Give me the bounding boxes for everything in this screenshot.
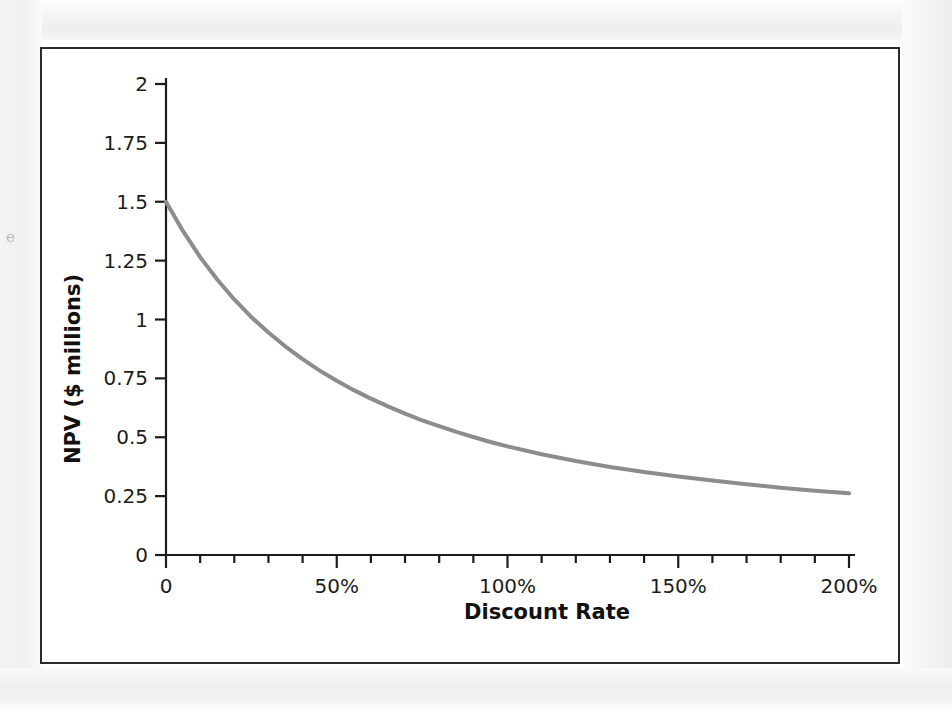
page-texture-top	[0, 0, 952, 40]
x-axis-title: Discount Rate	[464, 600, 630, 624]
y-tick-label: 0.75	[103, 366, 148, 390]
y-tick-label: 0	[135, 543, 148, 567]
x-tick-label: 150%	[650, 574, 707, 598]
data-series-lines	[166, 202, 849, 494]
y-axis-title: NPV ($ millions)	[61, 274, 85, 464]
x-tick-label: 0	[160, 574, 173, 598]
y-tick-label: 1.75	[103, 131, 148, 155]
y-tick-label: 0.25	[103, 484, 148, 508]
x-tick-label: 50%	[315, 574, 359, 598]
y-tick-label: 0.5	[116, 425, 148, 449]
x-tick-label: 100%	[479, 574, 536, 598]
x-tick-label: 200%	[820, 574, 877, 598]
y-axis-ticks: 00.250.50.7511.251.51.752	[103, 72, 166, 567]
npv-curve	[166, 202, 849, 494]
y-tick-label: 1	[135, 308, 148, 332]
page-texture-right	[902, 0, 952, 712]
npv-vs-discount-rate-chart: 00.250.50.7511.251.51.752 050%100%150%20…	[42, 49, 898, 662]
y-tick-label: 2	[135, 72, 148, 96]
figure-frame: 00.250.50.7511.251.51.752 050%100%150%20…	[40, 47, 900, 664]
page-texture-left	[0, 0, 42, 712]
x-axis-ticks: 050%100%150%200%	[160, 555, 878, 598]
y-tick-label: 1.25	[103, 249, 148, 273]
y-tick-label: 1.5	[116, 190, 148, 214]
page-texture-bottom	[0, 668, 952, 712]
margin-text-fragment: e	[6, 228, 15, 246]
